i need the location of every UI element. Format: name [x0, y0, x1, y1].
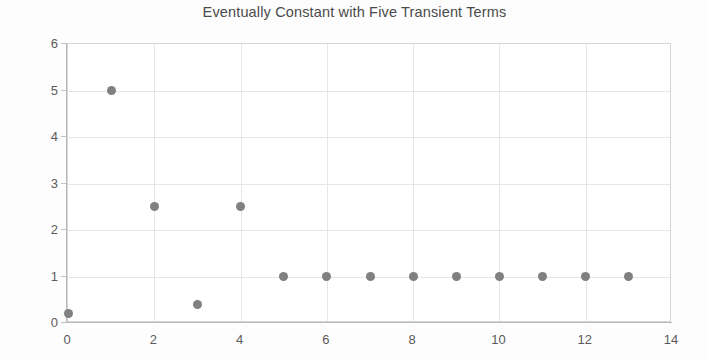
y-tick-mark	[61, 43, 66, 44]
data-point	[64, 309, 73, 318]
data-point	[624, 272, 633, 281]
data-point	[452, 272, 461, 281]
data-point	[150, 202, 159, 211]
chart-title: Eventually Constant with Five Transient …	[0, 4, 709, 20]
y-tick-mark	[61, 276, 66, 277]
plot-area	[67, 43, 671, 322]
gridline-horizontal	[68, 91, 670, 92]
y-tick-label: 4	[34, 129, 58, 144]
x-tick-label: 6	[306, 332, 346, 347]
y-tick-label: 1	[34, 268, 58, 283]
data-point	[236, 202, 245, 211]
gridline-horizontal	[68, 137, 670, 138]
data-point	[409, 272, 418, 281]
y-tick-mark	[61, 183, 66, 184]
x-tick-label: 0	[47, 332, 87, 347]
y-tick-label: 2	[34, 222, 58, 237]
y-tick-label: 0	[34, 315, 58, 330]
x-tick-label: 14	[651, 332, 691, 347]
y-tick-label: 5	[34, 82, 58, 97]
data-point	[279, 272, 288, 281]
x-tick-label: 2	[133, 332, 173, 347]
data-point	[538, 272, 547, 281]
x-axis-spine	[66, 322, 672, 323]
y-tick-mark	[61, 322, 66, 323]
data-point	[322, 272, 331, 281]
data-point	[107, 86, 116, 95]
x-tick-label: 4	[220, 332, 260, 347]
gridline-vertical	[154, 44, 155, 321]
y-tick-mark	[61, 90, 66, 91]
data-point	[495, 272, 504, 281]
y-axis-tick-labels: 0123456	[12, 0, 58, 360]
data-point	[193, 300, 202, 309]
data-point	[366, 272, 375, 281]
y-tick-label: 6	[34, 36, 58, 51]
gridline-horizontal	[68, 184, 670, 185]
gridline-horizontal	[68, 230, 670, 231]
chart-container: Eventually Constant with Five Transient …	[0, 0, 709, 360]
x-tick-label: 12	[565, 332, 605, 347]
x-tick-label: 8	[392, 332, 432, 347]
data-point	[581, 272, 590, 281]
gridline-vertical	[241, 44, 242, 321]
x-tick-label: 10	[478, 332, 518, 347]
y-tick-label: 3	[34, 175, 58, 190]
y-tick-mark	[61, 136, 66, 137]
y-tick-mark	[61, 229, 66, 230]
